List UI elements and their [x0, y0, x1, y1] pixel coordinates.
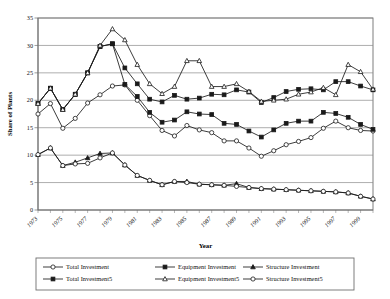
- y-tick-label-25: 25: [27, 69, 33, 76]
- x-tick-label-1987: 1987: [199, 214, 213, 228]
- y-tick-label-20: 20: [27, 96, 33, 103]
- data-point-5-17: [247, 185, 251, 189]
- data-point-3-24: [333, 92, 338, 96]
- data-point-0-19: [272, 149, 276, 153]
- data-point-5-10: [160, 183, 164, 187]
- legend-item-5[interactable]: Structure Investment5: [243, 275, 323, 282]
- data-point-5-14: [210, 183, 214, 187]
- data-point-0-18: [259, 154, 263, 158]
- data-point-3-25: [346, 62, 351, 66]
- data-point-1-27: [371, 127, 375, 131]
- data-point-5-16: [234, 184, 238, 188]
- data-point-1-15: [222, 121, 226, 125]
- data-point-3-26: [358, 69, 363, 73]
- data-point-1-8: [135, 95, 139, 99]
- x-tick-label-1995: 1995: [298, 215, 312, 229]
- data-point-5-25: [346, 191, 350, 195]
- data-point-1-18: [259, 135, 263, 139]
- legend-item-1[interactable]: Equipment Investment: [155, 263, 236, 270]
- legend-marker-5: [251, 277, 255, 281]
- series-0: [36, 83, 375, 159]
- y-axis: 05101520253035Share of Plants: [6, 14, 38, 213]
- data-point-1-7: [123, 82, 127, 86]
- x-axis: 1973197519771979198119831985198719891991…: [25, 210, 373, 249]
- legend-item-0[interactable]: Total Investment: [43, 263, 109, 270]
- data-point-0-17: [247, 146, 251, 150]
- data-point-0-25: [346, 126, 350, 130]
- data-point-2-11: [173, 93, 177, 97]
- y-tick-label-5: 5: [30, 179, 33, 186]
- data-point-0-0: [36, 112, 40, 116]
- data-point-5-0: [36, 152, 40, 156]
- data-point-3-16: [234, 81, 239, 85]
- data-point-1-10: [160, 120, 164, 124]
- data-point-2-24: [334, 80, 338, 84]
- data-point-2-26: [359, 84, 363, 88]
- data-point-0-23: [321, 126, 325, 130]
- data-point-5-19: [272, 187, 276, 191]
- data-point-0-14: [210, 131, 214, 135]
- legend-item-2[interactable]: Structure Investment: [243, 263, 320, 270]
- data-point-0-12: [185, 123, 189, 127]
- data-point-0-26: [358, 128, 362, 132]
- legend-item-3[interactable]: Total Investment5: [43, 275, 112, 282]
- data-point-0-11: [172, 134, 176, 138]
- series-line-0: [38, 85, 373, 156]
- data-point-1-25: [346, 115, 350, 119]
- data-point-2-20: [284, 90, 288, 94]
- data-point-1-20: [284, 121, 288, 125]
- legend-item-4[interactable]: Equipment Investment5: [155, 275, 239, 282]
- data-point-2-15: [222, 93, 226, 97]
- line-chart: 05101520253035Share of Plants19731975197…: [0, 0, 390, 299]
- data-point-1-11: [173, 118, 177, 122]
- data-point-0-3: [73, 116, 77, 120]
- data-point-5-12: [185, 180, 189, 184]
- y-tick-label-30: 30: [27, 42, 33, 49]
- data-point-1-9: [148, 110, 152, 114]
- data-point-0-22: [309, 135, 313, 139]
- data-point-1-26: [359, 123, 363, 127]
- chart-container: 05101520253035Share of Plants19731975197…: [0, 0, 390, 299]
- data-point-2-10: [160, 100, 164, 104]
- data-point-1-16: [235, 123, 239, 127]
- data-point-2-13: [197, 96, 201, 100]
- x-tick-label-1975: 1975: [50, 215, 64, 229]
- series-5: [36, 146, 375, 201]
- x-tick-label-1989: 1989: [224, 215, 238, 229]
- data-point-0-21: [296, 139, 300, 143]
- data-point-2-21: [297, 87, 301, 91]
- y-tick-label-0: 0: [30, 206, 33, 213]
- data-point-2-6: [111, 42, 115, 46]
- data-point-1-21: [297, 119, 301, 123]
- data-point-1-12: [185, 110, 189, 114]
- data-point-2-25: [346, 80, 350, 84]
- data-point-5-5: [98, 156, 102, 160]
- data-point-1-23: [321, 110, 325, 114]
- data-point-5-7: [123, 163, 127, 167]
- data-point-0-13: [197, 128, 201, 132]
- data-point-1-17: [247, 129, 251, 133]
- data-point-0-5: [98, 93, 102, 97]
- data-point-5-8: [135, 173, 139, 177]
- data-point-3-6: [110, 27, 115, 31]
- data-point-3-23: [321, 85, 326, 89]
- y-tick-label-15: 15: [27, 124, 33, 131]
- legend-label-0: Total Investment: [66, 263, 109, 270]
- data-point-5-11: [172, 179, 176, 183]
- data-point-5-20: [284, 188, 288, 192]
- legend-label-5: Structure Investment5: [266, 275, 323, 282]
- data-point-0-10: [160, 128, 164, 132]
- data-point-2-12: [185, 97, 189, 101]
- data-point-5-23: [321, 189, 325, 193]
- legend-label-1: Equipment Investment: [178, 263, 236, 270]
- data-point-2-16: [235, 88, 239, 92]
- data-point-5-1: [48, 146, 52, 150]
- data-point-0-20: [284, 143, 288, 147]
- data-point-3-11: [172, 84, 177, 88]
- y-axis-title: Share of Plants: [6, 92, 13, 136]
- data-point-0-15: [222, 139, 226, 143]
- data-point-5-24: [334, 190, 338, 194]
- data-point-5-26: [358, 194, 362, 198]
- data-point-2-7: [123, 66, 127, 70]
- data-point-5-22: [309, 189, 313, 193]
